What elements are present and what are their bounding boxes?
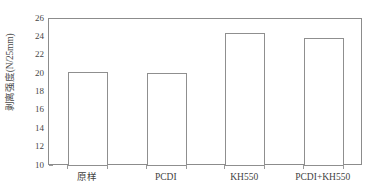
x-category-label: PCDI+KH550 (284, 172, 363, 183)
y-tick-label: 10 (26, 161, 44, 170)
bar (68, 72, 108, 166)
y-axis-title: 剥离强度(N/25mm) (0, 0, 18, 146)
x-category-label: PCDI (127, 172, 206, 183)
x-tick-mark (343, 165, 344, 169)
y-tick-label: 12 (26, 142, 44, 151)
y-tick-label: 16 (26, 105, 44, 114)
x-tick-mark (67, 165, 68, 169)
x-category-label: KH550 (205, 172, 284, 183)
x-tick-mark (107, 165, 108, 169)
bar-chart-figure: 剥离强度(N/25mm) 原样PCDIKH550PCDI+KH550 10121… (0, 0, 373, 191)
y-tick-label: 24 (26, 32, 44, 41)
x-tick-mark (303, 165, 304, 169)
y-tick-label: 14 (26, 124, 44, 133)
y-tick-label: 20 (26, 69, 44, 78)
x-tick-mark (264, 165, 265, 169)
y-tick-label: 18 (26, 87, 44, 96)
plot-area (48, 18, 362, 165)
x-tick-mark (186, 165, 187, 169)
bar (304, 38, 344, 166)
y-tick-label: 26 (26, 14, 44, 23)
bar (147, 73, 187, 166)
x-category-label: 原样 (48, 172, 127, 183)
y-tick-mark (49, 165, 53, 166)
bar (225, 33, 265, 166)
x-tick-mark (224, 165, 225, 169)
x-tick-mark (146, 165, 147, 169)
y-tick-label: 22 (26, 50, 44, 59)
